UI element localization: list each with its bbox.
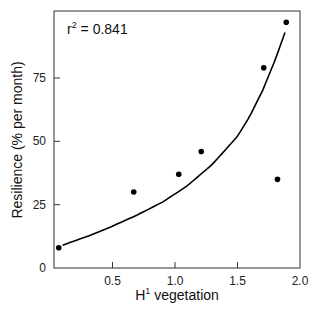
x-tick-label: 0.5 xyxy=(104,274,121,288)
data-point xyxy=(176,171,182,177)
y-tick-label: 0 xyxy=(39,261,46,275)
data-point xyxy=(261,65,267,71)
data-points xyxy=(56,19,289,250)
data-point xyxy=(198,149,204,155)
scatter-chart: 0255075 0.51.01.52.0 r2 = 0.841 H1 veget… xyxy=(0,0,318,315)
x-tick-label: 1.5 xyxy=(229,274,246,288)
r-squared-annotation: r2 = 0.841 xyxy=(67,20,128,37)
fitted-curve xyxy=(63,32,286,245)
x-axis-ticks: 0.51.01.52.0 xyxy=(104,262,309,288)
y-tick-label: 50 xyxy=(33,134,47,148)
x-tick-label: 1.0 xyxy=(167,274,184,288)
y-axis-label: Resilience (% per month) xyxy=(9,61,25,218)
x-axis-label: H1 vegetation xyxy=(135,286,219,303)
y-tick-label: 25 xyxy=(33,198,47,212)
x-tick-label: 2.0 xyxy=(292,274,309,288)
data-point xyxy=(131,189,137,195)
plot-frame xyxy=(54,11,300,268)
y-axis-ticks: 0255075 xyxy=(33,71,60,275)
data-point xyxy=(283,19,289,25)
y-tick-label: 75 xyxy=(33,71,47,85)
data-point xyxy=(275,177,281,183)
data-point xyxy=(56,245,62,251)
